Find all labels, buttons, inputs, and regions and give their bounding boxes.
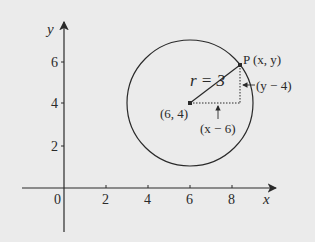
y-tick-label-2: 2 xyxy=(51,139,58,154)
point-p xyxy=(238,63,242,67)
horizontal-leg-label: (x − 6) xyxy=(200,121,236,136)
circle-diagram: y x 0 2 4 6 8 6 4 2 r = 3 (6, 4) P (x, y… xyxy=(0,0,315,242)
x-tick-label-8: 8 xyxy=(228,192,235,207)
origin-label: 0 xyxy=(54,192,61,207)
x-tick-label-6: 6 xyxy=(186,192,193,207)
y-tick-label-4: 4 xyxy=(51,96,58,111)
x-tick-label-4: 4 xyxy=(144,192,151,207)
y-axis-label: y xyxy=(45,21,54,37)
center-label: (6, 4) xyxy=(160,106,188,121)
point-label: P (x, y) xyxy=(243,52,281,67)
x-axis-label: x xyxy=(262,191,270,207)
vertical-leg-label: (y − 4) xyxy=(256,78,292,93)
radius-label: r = 3 xyxy=(190,71,225,90)
center-point xyxy=(188,101,192,105)
x-tick-label-2: 2 xyxy=(102,192,109,207)
diagram-canvas: y x 0 2 4 6 8 6 4 2 r = 3 (6, 4) P (x, y… xyxy=(0,0,315,242)
y-tick-label-6: 6 xyxy=(51,55,58,70)
